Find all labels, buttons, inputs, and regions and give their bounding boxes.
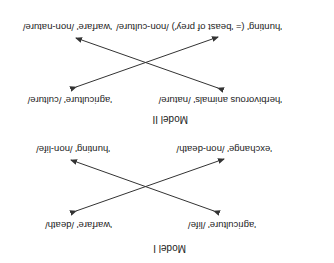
arrow-warfare-exchange — [76, 159, 224, 211]
arrow-agriculture-hunting — [71, 160, 214, 211]
model-2-bottom-left: 'hunting' (= 'beast of prey') /non-cultu… — [116, 22, 282, 33]
model-1-bottom-left: 'exchange' /non-death/ — [176, 144, 272, 155]
diagram-stage: Model I 'agriculture' /life/ 'warfare' /… — [0, 0, 334, 263]
arrow-herbivorous-warfare — [76, 38, 218, 88]
model-2-bottom-right: 'warfare' /non-nature/ — [23, 22, 112, 33]
model-2-top-left: 'herbivorous animals' /nature/ — [159, 95, 283, 106]
model-2-title: Model II — [152, 114, 188, 125]
model-1-title: Model I — [153, 243, 186, 254]
model-1-bottom-right: 'hunting' /non-life/ — [36, 144, 110, 155]
model-2-top-right: 'agriculture' /culture/ — [28, 95, 112, 106]
arrow-agriculture-hunting-2 — [76, 37, 218, 87]
model-1-top-right: 'warfare' /death/ — [45, 220, 112, 231]
model-1-top-left: 'agriculture' /life/ — [188, 220, 256, 231]
